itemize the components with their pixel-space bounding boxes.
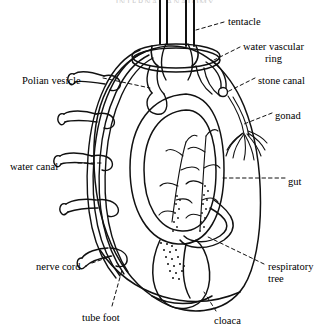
gonad-structure <box>226 96 267 160</box>
label-stone-canal: stone canal <box>258 75 305 87</box>
label-nerve-cord: nerve cord <box>36 261 81 273</box>
label-respiratory-tree-line1: respiratory <box>268 261 313 273</box>
label-respiratory-tree: respiratory tree <box>268 261 313 284</box>
stipple-cloacal-gut <box>160 242 185 280</box>
leader-water-ring <box>214 47 240 60</box>
label-gonad: gonad <box>275 110 301 122</box>
label-cloaca: cloaca <box>214 315 241 327</box>
polian-vesicle-structure <box>147 66 167 114</box>
label-tube-foot: tube foot <box>82 312 120 324</box>
label-water-vascular-ring-line2: ring <box>243 53 304 65</box>
label-polian-vesicle: Polian vesicle <box>22 75 81 87</box>
tube-feet-group <box>54 72 127 269</box>
tentacles-group <box>160 0 194 46</box>
label-tentacle: tentacle <box>228 16 261 28</box>
label-water-vascular-ring-line1: water vascular <box>243 41 304 53</box>
cloaca-structure <box>152 240 212 309</box>
label-gut: gut <box>288 176 301 188</box>
pharynx <box>162 44 193 80</box>
leader-tentacle <box>196 22 224 30</box>
leader-respiratory <box>206 236 264 264</box>
label-water-canal: water canal <box>10 161 58 173</box>
leader-stone-canal <box>227 78 255 92</box>
gut-loop <box>130 94 233 248</box>
label-respiratory-tree-line2: tree <box>268 273 313 285</box>
respiratory-tree-right <box>186 130 220 230</box>
label-water-vascular-ring: water vascular ring <box>243 41 304 64</box>
